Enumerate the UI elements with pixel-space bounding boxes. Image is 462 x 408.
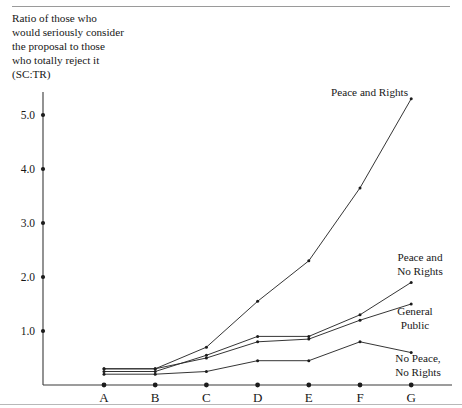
series-point-no-peace-no-rights-B bbox=[154, 373, 157, 376]
series-point-peace-and-rights-D bbox=[256, 300, 259, 303]
line-chart-plot bbox=[0, 0, 462, 408]
series-label-general-public: General Public bbox=[378, 305, 452, 332]
series-point-peace-and-no-rights-A bbox=[103, 370, 106, 373]
series-point-general-public-D bbox=[256, 340, 259, 343]
y-axis-tick-label: 1.0 bbox=[5, 325, 35, 337]
x-axis-tick-E bbox=[306, 383, 311, 388]
x-axis-tick-label-g: G bbox=[399, 391, 423, 405]
series-line-peace-and-rights bbox=[104, 99, 411, 369]
series-point-no-peace-no-rights-D bbox=[256, 359, 259, 362]
series-point-peace-and-no-rights-C bbox=[205, 354, 208, 357]
series-point-peace-and-no-rights-D bbox=[256, 335, 259, 338]
x-axis-tick-label-e: E bbox=[297, 391, 321, 405]
series-line-no-peace-no-rights bbox=[104, 342, 411, 374]
x-axis-tick-A bbox=[102, 383, 107, 388]
series-point-peace-and-no-rights-B bbox=[154, 370, 157, 373]
series-point-peace-and-rights-G bbox=[410, 97, 413, 100]
x-axis-tick-B bbox=[153, 383, 158, 388]
y-axis-tick-4.0 bbox=[41, 167, 45, 171]
x-axis-tick-F bbox=[358, 383, 363, 388]
series-point-general-public-B bbox=[154, 367, 157, 370]
series-point-peace-and-rights-C bbox=[205, 346, 208, 349]
series-point-general-public-A bbox=[103, 367, 106, 370]
series-point-general-public-E bbox=[307, 338, 310, 341]
series-point-peace-and-no-rights-F bbox=[359, 313, 362, 316]
y-axis-tick-5.0 bbox=[41, 113, 45, 117]
y-axis-tick-label: 4.0 bbox=[5, 163, 35, 175]
series-point-no-peace-no-rights-C bbox=[205, 370, 208, 373]
series-point-no-peace-no-rights-F bbox=[359, 340, 362, 343]
x-axis-tick-D bbox=[255, 383, 260, 388]
y-axis-tick-3.0 bbox=[41, 221, 45, 225]
x-axis-tick-C bbox=[204, 383, 209, 388]
y-axis-tick-2.0 bbox=[41, 275, 45, 279]
series-label-peace-and-no-rights: Peace and No Rights bbox=[378, 251, 462, 278]
series-point-peace-and-rights-E bbox=[307, 259, 310, 262]
x-axis-tick-label-a: A bbox=[92, 391, 116, 405]
series-point-no-peace-no-rights-A bbox=[103, 373, 106, 376]
x-axis-tick-label-b: B bbox=[143, 391, 167, 405]
series-point-peace-and-no-rights-G bbox=[410, 281, 413, 284]
x-axis-tick-label-d: D bbox=[246, 391, 270, 405]
series-point-no-peace-no-rights-E bbox=[307, 359, 310, 362]
y-axis-tick-1.0 bbox=[41, 329, 45, 333]
y-axis-tick-label: 2.0 bbox=[5, 271, 35, 283]
series-line-peace-and-no-rights bbox=[104, 282, 411, 371]
series-label-no-peace-no-rights: No Peace, No Rights bbox=[374, 352, 462, 379]
x-axis-tick-G bbox=[409, 383, 414, 388]
series-point-peace-and-rights-F bbox=[359, 186, 362, 189]
series-point-general-public-C bbox=[205, 357, 208, 360]
y-axis-tick-label: 3.0 bbox=[5, 217, 35, 229]
figure-page: Ratio of those who would seriously consi… bbox=[0, 0, 462, 408]
series-point-peace-and-no-rights-E bbox=[307, 335, 310, 338]
series-point-general-public-F bbox=[359, 319, 362, 322]
x-axis-tick-label-f: F bbox=[348, 391, 372, 405]
series-label-peace-and-rights: Peace and Rights bbox=[331, 86, 408, 100]
x-axis-tick-label-c: C bbox=[194, 391, 218, 405]
y-axis-tick-label: 5.0 bbox=[5, 109, 35, 121]
bottom-divider-rule bbox=[0, 404, 462, 405]
